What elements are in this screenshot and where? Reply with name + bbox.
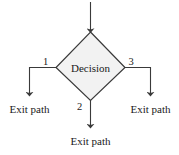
- decision-flowchart-diagram: Decision 1 3 2 Exit path Exit path Exit …: [0, 0, 179, 155]
- branch-3-exit-label: Exit path: [130, 103, 171, 115]
- decision-node-label: Decision: [71, 62, 111, 74]
- branch-1-number: 1: [43, 56, 48, 67]
- branch-2-number: 2: [77, 101, 82, 112]
- branch-1-exit-label: Exit path: [9, 103, 50, 115]
- branch-3-connector: [125, 68, 151, 95]
- flowchart-canvas: Decision 1 3 2 Exit path Exit path Exit …: [0, 0, 179, 155]
- branch-1-connector: [30, 68, 57, 95]
- branch-2-exit-label: Exit path: [70, 135, 111, 147]
- branch-3-number: 3: [128, 56, 133, 67]
